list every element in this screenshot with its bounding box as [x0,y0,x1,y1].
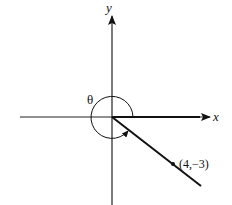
terminal-ray [112,117,201,186]
coordinate-plane: y x θ (4,−3) [0,0,232,205]
x-axis-label: x [212,109,219,124]
point-label: (4,−3) [179,157,209,171]
diagram-canvas: y x θ (4,−3) [0,0,232,205]
point-marker [171,162,175,166]
theta-label: θ [87,92,93,107]
y-axis-label: y [104,0,112,15]
